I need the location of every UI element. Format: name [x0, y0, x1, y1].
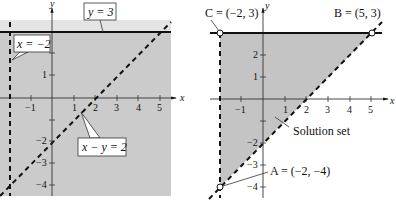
y-tick-neg3: −3	[247, 159, 258, 170]
y-axis-label: y	[49, 0, 55, 9]
x-tick-5: 5	[368, 104, 373, 115]
y-tick-neg4: −4	[247, 181, 258, 192]
x-axis-label: x	[179, 92, 185, 103]
y-tick-neg2: −2	[247, 137, 258, 148]
svg-text:y = 3: y = 3	[87, 5, 113, 19]
left-graph: x y −1 1 2 3 4 5 1 −2 −3 −4	[0, 0, 185, 196]
vertex-c	[217, 30, 223, 36]
x-tick-5: 5	[157, 102, 162, 113]
inequality-graphs: x y −1 1 2 3 4 5 1 −2 −3 −4	[0, 0, 396, 207]
y-axis-label: y	[264, 0, 270, 11]
vertex-a	[217, 184, 223, 190]
x-tick-4: 4	[347, 104, 352, 115]
y-tick-2: 2	[253, 49, 258, 60]
x-tick-3: 3	[114, 102, 119, 113]
y-tick-1: 1	[42, 69, 47, 80]
x-tick-neg1: −1	[235, 104, 246, 115]
light-shade-region	[0, 20, 171, 32]
svg-text:x − y = 2: x − y = 2	[81, 140, 127, 154]
x-tick-1: 1	[72, 102, 77, 113]
x-tick-3: 3	[325, 104, 330, 115]
svg-text:x = −2: x = −2	[16, 37, 51, 51]
vertex-b	[369, 30, 375, 36]
x-axis-label: x	[389, 95, 395, 106]
x-tick-2: 2	[93, 102, 98, 113]
x-tick-neg1: −1	[25, 102, 36, 113]
label-vertex-b: B = (5, 3)	[334, 6, 381, 20]
leader-c	[211, 20, 219, 31]
label-vertex-a: A = (−2, −4)	[270, 164, 330, 178]
y-tick-neg4: −4	[36, 179, 47, 190]
y-tick-1: 1	[253, 71, 258, 82]
x-tick-2: 2	[304, 104, 309, 115]
x-tick-1: 1	[283, 104, 288, 115]
label-solution-set: Solution set	[293, 124, 351, 138]
dark-shade-region	[0, 32, 171, 196]
y-tick-neg3: −3	[36, 157, 47, 168]
x-tick-4: 4	[136, 102, 141, 113]
y-tick-neg2: −2	[36, 135, 47, 146]
right-graph: x y −1 1 2 3 4 5 2 1 −2 −3	[205, 0, 395, 199]
label-vertex-c: C = (−2, 3)	[205, 6, 259, 20]
